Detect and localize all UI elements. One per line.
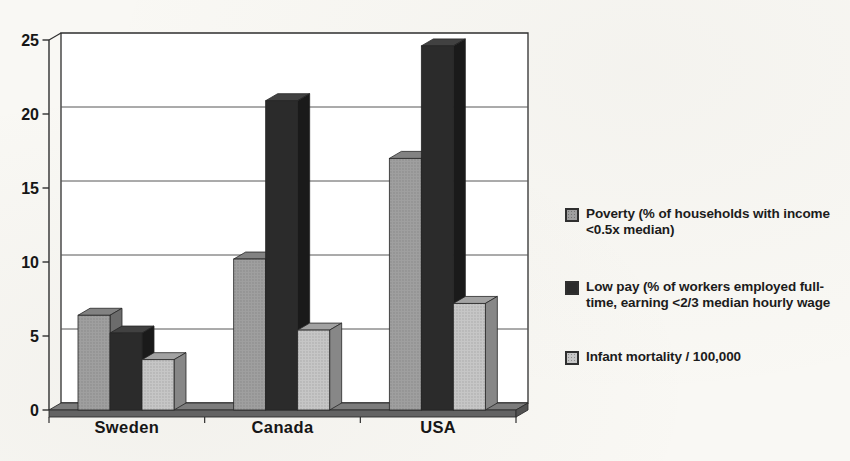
legend-swatch-poverty — [565, 208, 579, 222]
y-tick-label-15: 15 — [21, 180, 39, 197]
bar-usa-series0-texture — [389, 158, 421, 410]
bar-canada-series1-front — [266, 101, 298, 410]
bar-usa-series2-side — [485, 296, 497, 410]
bar-usa-series2-texture — [453, 303, 485, 410]
bar-sweden-series2-side — [174, 353, 186, 410]
scanned-chart-page: 0510152025SwedenCanadaUSA Poverty (% of … — [0, 0, 850, 461]
y-axis-top-joint — [49, 33, 61, 40]
bar-canada-series2-texture — [298, 330, 330, 410]
x-category-label-canada: Canada — [251, 418, 313, 436]
x-category-label-usa: USA — [420, 418, 456, 436]
legend-label-infant-mortality: Infant mortality / 100,000 — [586, 349, 741, 365]
legend-swatch-infant-mortality — [565, 351, 579, 365]
legend-label-low-pay: Low pay (% of workers employed full-time… — [586, 279, 850, 312]
y-tick-label-0: 0 — [30, 402, 39, 419]
plot-floor-front — [49, 410, 516, 417]
legend-item-poverty: Poverty (% of households with income <0.… — [565, 206, 850, 239]
bar-sweden-series2-texture — [142, 360, 174, 410]
bar-usa-series1-front — [421, 46, 453, 410]
bar-canada-series2-side — [330, 323, 342, 410]
legend-swatch-low-pay — [565, 281, 579, 295]
x-category-label-sweden: Sweden — [94, 418, 159, 436]
legend-item-infant-mortality: Infant mortality / 100,000 — [565, 349, 850, 365]
legend-item-low-pay: Low pay (% of workers employed full-time… — [565, 279, 850, 312]
y-tick-label-10: 10 — [21, 254, 39, 271]
bar-sweden-series0-texture — [78, 315, 110, 410]
legend-label-poverty: Poverty (% of households with income <0.… — [586, 206, 850, 239]
bar-canada-series0-texture — [234, 259, 266, 410]
y-tick-label-5: 5 — [30, 328, 39, 345]
bar-sweden-series1-front — [110, 333, 142, 410]
y-tick-label-20: 20 — [21, 106, 39, 123]
y-tick-label-25: 25 — [21, 32, 39, 49]
